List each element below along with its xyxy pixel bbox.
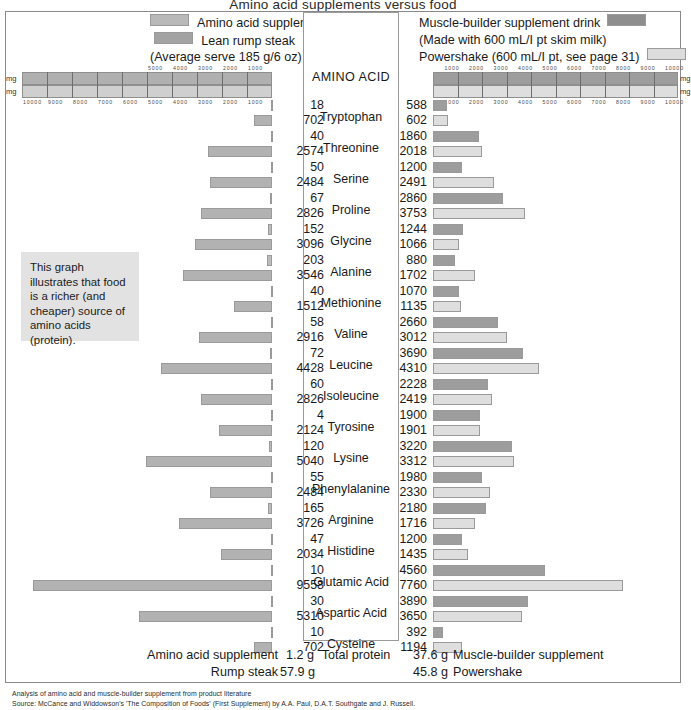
left-axis-tick-label-bottom: 8000: [73, 99, 88, 105]
legend-swatch-amino-acid-supplement: [150, 14, 189, 26]
left-axis-tick-label-top: 5000: [148, 65, 163, 71]
right-axis-tick-label-top: 8000: [616, 65, 631, 71]
bar-powershake: [433, 177, 494, 188]
bar-powershake: [433, 146, 482, 157]
amino-acid-name: Methionine: [303, 296, 399, 310]
amino-acid-name: Tryptophan: [303, 110, 399, 124]
bar-powershake: [433, 580, 623, 591]
amino-acid-name: Aspartic Acid: [303, 606, 399, 620]
amino-acid-name: Serine: [303, 172, 399, 186]
bar-amino-acid-supplement: [271, 162, 273, 173]
callout-box: This graph illustrates that food is a ri…: [21, 252, 139, 341]
total-label-muscle-builder: Muscle-builder supplement: [453, 648, 604, 662]
right-axis-tick-label-top: 2000: [469, 65, 484, 71]
bar-muscle-builder: [433, 162, 462, 173]
footnote-line-2: Source: McCance and Widdowson's 'The Com…: [12, 700, 415, 707]
bar-lean-rump-steak: [33, 580, 272, 591]
bar-amino-acid-supplement: [271, 286, 273, 297]
left-axis-tick-label-bottom: 3000: [198, 99, 213, 105]
right-axis-tickline: [654, 72, 655, 98]
left-axis-tickline: [147, 72, 148, 98]
amino-acid-name: Glycine: [303, 234, 399, 248]
bar-amino-acid-supplement: [271, 472, 273, 483]
amino-acid-name: Cysteine: [303, 637, 399, 651]
left-axis-tick-label-bottom: 5000: [148, 99, 163, 105]
bar-powershake: [433, 518, 475, 529]
legend-left-note: (Average serve 185 g/6 oz): [150, 49, 295, 66]
bar-amino-acid-supplement: [271, 534, 273, 545]
legend-swatch-powershake: [647, 48, 686, 60]
left-axis-tick-label-bottom: 2000: [223, 99, 238, 105]
bar-muscle-builder: [433, 410, 480, 421]
bar-powershake: [433, 487, 490, 498]
bar-powershake: [433, 611, 522, 622]
left-axis-tickline: [247, 72, 248, 98]
left-axis-tick-label-bottom: 10000: [23, 99, 42, 105]
bar-lean-rump-steak: [234, 301, 272, 312]
legend-right-row-muscle-builder: Muscle-builder supplement drink: [419, 14, 681, 32]
right-axis-tick-label-top: 7000: [592, 65, 607, 71]
bar-muscle-builder: [433, 193, 503, 204]
bar-muscle-builder: [433, 503, 486, 514]
bar-powershake: [433, 456, 514, 467]
amino-acid-name: Histidine: [303, 544, 399, 558]
left-axis-tick-label-bottom: 9000: [48, 99, 63, 105]
amino-acid-name: Isoleucine: [303, 389, 399, 403]
bar-muscle-builder: [433, 441, 512, 452]
right-axis-tick-label-bottom: 9000: [641, 99, 656, 105]
left-axis-unit-bottom: mg: [6, 87, 17, 96]
right-axis-tickline: [482, 72, 483, 98]
right-axis-tick-label-bottom: 8000: [616, 99, 631, 105]
left-axis-tickline: [172, 72, 173, 98]
left-axis-tick-label-top: 3000: [198, 65, 213, 71]
right-axis-tick-label-bottom: 10000: [665, 99, 684, 105]
bar-muscle-builder: [433, 224, 463, 235]
bar-amino-acid-supplement: [268, 503, 272, 514]
left-axis-tickline: [222, 72, 223, 98]
bar-amino-acid-supplement: [271, 100, 273, 111]
bar-lean-rump-steak: [210, 487, 272, 498]
bar-lean-rump-steak: [139, 611, 272, 622]
bar-lean-rump-steak: [146, 456, 272, 467]
left-axis-tickline: [122, 72, 123, 98]
bar-amino-acid-supplement: [271, 596, 273, 607]
right-axis-tick-label-bottom: 6000: [567, 99, 582, 105]
bar-muscle-builder: [433, 286, 459, 297]
bar-amino-acid-supplement: [271, 317, 273, 328]
left-axis-tickline: [197, 72, 198, 98]
footnote-line-1: Analysis of amino acid and muscle-builde…: [12, 690, 251, 697]
bar-amino-acid-supplement: [271, 627, 273, 638]
right-axis-unit-bottom: mg: [680, 87, 691, 96]
amino-acid-name: Valine: [303, 327, 399, 341]
bar-powershake: [433, 115, 448, 126]
bar-powershake: [433, 301, 461, 312]
bar-powershake: [433, 425, 480, 436]
legend-right-note: (Made with 600 mL/I pt skim milk): [419, 32, 681, 49]
right-axis-tick-label-top: 6000: [567, 65, 582, 71]
amino-acid-name: Leucine: [303, 358, 399, 372]
total-label-amino-acid-supplement: Amino acid supplement: [108, 648, 278, 662]
left-axis-tick-label-bottom: 7000: [98, 99, 113, 105]
bar-muscle-builder: [433, 100, 447, 111]
bar-powershake: [433, 363, 539, 374]
legend-left: Amino acid supplement Lean rump steak (A…: [150, 14, 295, 66]
right-axis-unit-top: mg: [680, 74, 691, 83]
bar-amino-acid-supplement: [267, 255, 272, 266]
left-axis-tick-label-top: 2000: [223, 65, 238, 71]
legend-swatch-muscle-builder: [607, 14, 646, 26]
bar-powershake: [433, 208, 525, 219]
right-axis-tickline: [531, 72, 532, 98]
right-axis-tickline: [629, 72, 630, 98]
legend-swatch-lean-rump-steak: [154, 32, 193, 44]
bar-amino-acid-supplement: [271, 131, 273, 142]
total-value-muscle-builder: 37.6 g: [404, 648, 448, 662]
bar-amino-acid-supplement: [270, 193, 272, 204]
bar-lean-rump-steak: [161, 363, 272, 374]
left-axis-tick-label-top: 4000: [173, 65, 188, 71]
right-axis-tick-label-top: 1000: [445, 65, 460, 71]
bar-lean-rump-steak: [221, 549, 272, 560]
legend-label-muscle-builder: Muscle-builder supplement drink: [419, 16, 600, 30]
amino-acid-name: Lysine: [303, 451, 399, 465]
left-axis-tickline: [97, 72, 98, 98]
right-axis-tick-label-bottom: 3000: [494, 99, 509, 105]
